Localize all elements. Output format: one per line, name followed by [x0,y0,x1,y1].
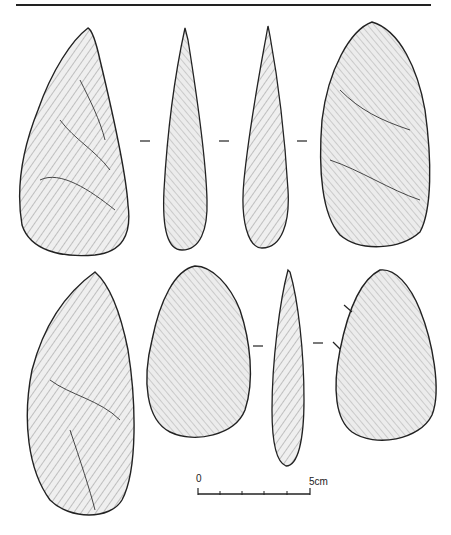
scale-end-label: 5cm [309,476,328,487]
artifact-plate [0,0,451,535]
handaxe-bottom-3-profile [272,270,304,466]
handaxe-bottom-1 [27,272,134,515]
handaxe-bottom-2 [147,266,251,437]
arrow-marker [333,342,340,349]
handaxe-bottom-4 [333,270,436,440]
scale-bar [198,488,310,495]
handaxe-top-1 [20,28,129,256]
scale-start-label: 0 [196,473,202,484]
handaxe-top-4 [321,22,430,247]
handaxe-top-3-profile [243,26,288,248]
handaxe-top-2-profile [164,28,207,250]
